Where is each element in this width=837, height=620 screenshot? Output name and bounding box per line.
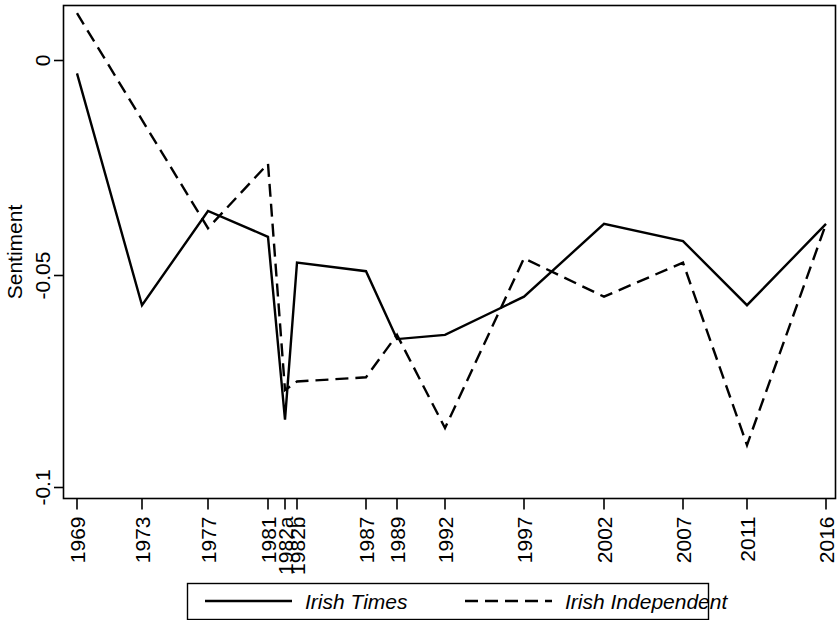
legend-label-irish-independent: Irish Independent <box>565 590 728 613</box>
x-axis-tick-label: 1969 <box>66 517 89 564</box>
y-axis-ticks <box>54 61 64 488</box>
x-axis-tick-label: 1987 <box>355 517 378 564</box>
x-axis-tick-label: 1997 <box>513 517 536 564</box>
y-axis-tick-label: -0.1 <box>31 469 54 505</box>
data-series-layer <box>77 13 826 445</box>
x-axis-tick-label: 1992 <box>434 517 457 564</box>
x-axis-tick-label: 1989 <box>386 517 409 564</box>
x-axis-tick-label: 1982b <box>286 517 309 575</box>
x-axis-tick-label: 1973 <box>131 517 154 564</box>
series-line-irish-independent <box>77 13 826 445</box>
legend-label-irish-times: Irish Times <box>305 590 408 613</box>
series-line-irish-times <box>77 73 826 419</box>
sentiment-line-chart: 0-0.05-0.1 19691973197719811982a1982b198… <box>0 0 837 620</box>
x-axis-tick-label: 2016 <box>815 517 837 564</box>
x-axis-tick-labels: 19691973197719811982a1982b19871989199219… <box>66 516 837 575</box>
y-axis-tick-label: 0 <box>31 55 54 67</box>
y-axis-tick-labels: 0-0.05-0.1 <box>31 55 54 506</box>
y-axis-title: Sentiment <box>3 205 26 300</box>
chart-canvas: 0-0.05-0.1 19691973197719811982a1982b198… <box>0 0 837 620</box>
x-axis-tick-label: 2007 <box>672 517 695 564</box>
y-axis-tick-label: -0.05 <box>31 252 54 300</box>
chart-legend: Irish Times Irish Independent <box>188 584 729 620</box>
x-axis-tick-label: 1977 <box>197 517 220 564</box>
x-axis-tick-label: 2011 <box>736 517 759 562</box>
x-axis-ticks <box>77 499 826 510</box>
x-axis-tick-label: 2002 <box>593 517 616 564</box>
